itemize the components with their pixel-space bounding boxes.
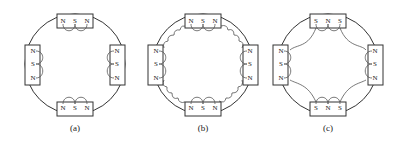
- pole-label: N: [278, 47, 283, 55]
- pole-label: S: [154, 60, 158, 68]
- leakage-flux-path: [163, 26, 243, 103]
- magnet-ring-figure: N S N N S N N S N N S N: [0, 0, 393, 150]
- pole-label: N: [188, 104, 193, 112]
- pole-label: N: [30, 47, 35, 55]
- pole-label: N: [30, 74, 35, 82]
- left-magnet: N S N: [273, 45, 291, 85]
- pole-label: S: [338, 17, 342, 25]
- pole-label: N: [84, 17, 89, 25]
- panel-b: N S N N S N N S N N S N (b): [148, 14, 258, 133]
- pole-label: S: [373, 60, 377, 68]
- pole-label: S: [201, 104, 205, 112]
- pole-label: S: [31, 60, 35, 68]
- pole-label: S: [73, 17, 77, 25]
- pole-label: S: [314, 104, 318, 112]
- pole-label: N: [247, 47, 252, 55]
- panel-c: S N S S N S N S N N S N (c): [273, 14, 383, 133]
- pole-label: N: [372, 74, 377, 82]
- ring-circle: [278, 14, 378, 114]
- pole-label: S: [338, 104, 342, 112]
- pole-label: N: [325, 104, 330, 112]
- top-magnet: N S N: [185, 14, 221, 31]
- right-magnet: N S N: [365, 45, 383, 85]
- bottom-magnet: N S N: [57, 97, 93, 116]
- bottom-magnet: N S N: [185, 97, 221, 116]
- pole-label: S: [248, 60, 252, 68]
- left-magnet: N S N: [25, 45, 43, 85]
- ring-circle: [153, 14, 253, 114]
- pole-label: N: [325, 17, 330, 25]
- pole-label: N: [212, 104, 217, 112]
- pole-label: N: [188, 17, 193, 25]
- caption-b: (b): [198, 123, 209, 133]
- pole-label: S: [115, 60, 119, 68]
- pole-label: S: [201, 17, 205, 25]
- pole-label: N: [84, 104, 89, 112]
- right-magnet: N S N: [240, 45, 258, 85]
- flux-arc-path: [290, 28, 366, 102]
- pole-label: N: [278, 74, 283, 82]
- pole-label: N: [60, 104, 65, 112]
- pole-label: N: [114, 47, 119, 55]
- pole-label: N: [60, 17, 65, 25]
- pole-label: N: [212, 17, 217, 25]
- top-magnet: S N S: [310, 14, 346, 31]
- panel-a: N S N N S N N S N N S N: [25, 14, 125, 133]
- pole-label: N: [153, 47, 158, 55]
- pole-label: N: [372, 47, 377, 55]
- pole-label: N: [114, 74, 119, 82]
- pole-label: S: [314, 17, 318, 25]
- pole-label: N: [153, 74, 158, 82]
- pole-label: S: [73, 104, 77, 112]
- caption-a: (a): [70, 123, 80, 133]
- right-magnet: N S N: [107, 45, 125, 85]
- caption-c: (c): [323, 123, 333, 133]
- pole-label: S: [279, 60, 283, 68]
- left-magnet: N S N: [148, 45, 166, 85]
- pole-label: N: [247, 74, 252, 82]
- top-magnet: N S N: [57, 14, 93, 31]
